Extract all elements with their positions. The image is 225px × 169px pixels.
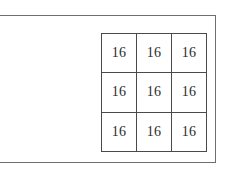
matrix-cell-r2c2: 16 bbox=[137, 73, 172, 112]
matrix-cell-r1c1: 16 bbox=[102, 34, 137, 73]
matrix-cell-r3c2: 16 bbox=[137, 112, 172, 151]
matrix-cell-r2c3: 16 bbox=[172, 73, 207, 112]
matrix-cell-r1c2: 16 bbox=[137, 34, 172, 73]
table-row: 16 16 16 bbox=[102, 73, 207, 112]
matrix-cell-r3c3: 16 bbox=[172, 112, 207, 151]
matrix-table-body: 16 16 16 16 16 16 16 16 16 bbox=[102, 34, 207, 152]
matrix-cell-r3c1: 16 bbox=[102, 112, 137, 151]
table-row: 16 16 16 bbox=[102, 34, 207, 73]
figure-canvas: 16 16 16 16 16 16 16 16 16 bbox=[0, 0, 225, 169]
matrix-table: 16 16 16 16 16 16 16 16 16 bbox=[101, 33, 207, 152]
table-row: 16 16 16 bbox=[102, 112, 207, 151]
matrix-cell-r2c1: 16 bbox=[102, 73, 137, 112]
matrix-cell-r1c3: 16 bbox=[172, 34, 207, 73]
